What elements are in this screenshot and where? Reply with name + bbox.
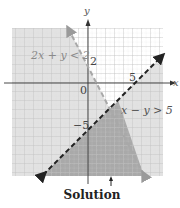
y-axis-arrow-icon — [86, 19, 91, 26]
solution-caption: Solution — [64, 188, 121, 202]
inequality-label-1: 2x + y < 2 — [31, 50, 90, 61]
inequality-label-2: x − y > 5 — [121, 105, 173, 116]
tick-label-y-neg5: −5 — [73, 120, 89, 131]
tick-label-x-5: 5 — [129, 72, 136, 83]
tick-label-y-2: 2 — [90, 56, 97, 67]
x-axis-label: x — [173, 78, 179, 88]
y-axis-label: y — [84, 6, 90, 16]
origin-label: 0 — [80, 85, 87, 96]
solution-arrow-icon — [109, 176, 113, 181]
